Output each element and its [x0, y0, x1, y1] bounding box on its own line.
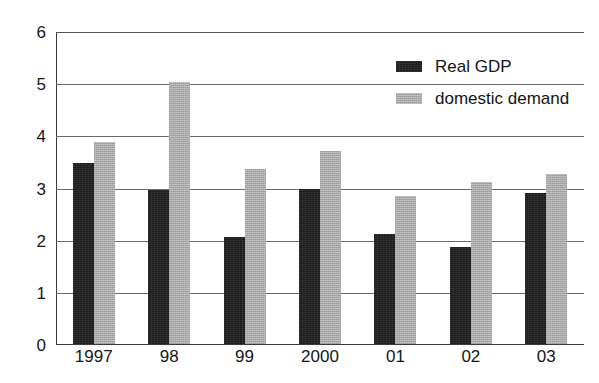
y-tick-label: 6 [37, 24, 46, 41]
bar-2000-domestic-demand [320, 151, 341, 345]
y-tick-label: 4 [37, 128, 46, 145]
x-tick-label: 01 [386, 348, 405, 366]
y-tick-label: 2 [37, 232, 46, 249]
legend-label: domestic demand [435, 90, 569, 107]
chart-legend: Real GDPdomestic demand [396, 50, 596, 114]
legend-item: Real GDP [396, 50, 596, 82]
bar-01-domestic-demand [395, 196, 416, 345]
x-tick-label: 1997 [75, 348, 113, 366]
x-tick-label: 02 [461, 348, 480, 366]
y-tick-label: 5 [37, 76, 46, 93]
y-axis-tick-labels: 0123456 [0, 32, 46, 345]
bar-chart: 0123456 199798992000010203 Real GDPdomes… [0, 0, 599, 383]
bar-99-domestic-demand [245, 169, 266, 345]
dark-swatch [396, 61, 422, 72]
bar-1997-domestic-demand [94, 142, 115, 345]
x-tick-label: 98 [160, 348, 179, 366]
x-axis-line [56, 344, 584, 345]
x-tick-label: 2000 [301, 348, 339, 366]
bar-02-domestic-demand [471, 182, 492, 345]
light-swatch [396, 93, 422, 104]
bar-01-real-gdp [374, 234, 395, 345]
y-tick-label: 3 [37, 180, 46, 197]
bar-03-domestic-demand [546, 174, 567, 345]
legend-item: domestic demand [396, 82, 596, 114]
bar-1997-real-gdp [73, 163, 94, 345]
gridline-4 [56, 136, 584, 137]
bar-03-real-gdp [525, 193, 546, 345]
bar-02-real-gdp [450, 247, 471, 345]
y-tick-label: 0 [37, 337, 46, 354]
bar-2000-real-gdp [299, 189, 320, 346]
bar-99-real-gdp [224, 237, 245, 345]
y-tick-label: 1 [37, 284, 46, 301]
x-tick-label: 03 [537, 348, 556, 366]
bar-98-real-gdp [148, 190, 169, 345]
x-axis-tick-labels: 199798992000010203 [56, 348, 584, 378]
legend-label: Real GDP [435, 58, 512, 75]
x-tick-label: 99 [235, 348, 254, 366]
bar-98-domestic-demand [169, 82, 190, 345]
